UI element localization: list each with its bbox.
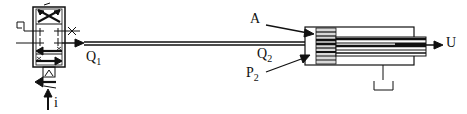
label-a: A	[250, 12, 260, 26]
hydraulic-cylinder	[305, 27, 443, 90]
servo-valve	[16, 3, 80, 110]
piston-rod	[336, 37, 426, 56]
label-p2: P2	[246, 66, 259, 80]
supply-line	[62, 39, 306, 47]
label-q2: Q2	[257, 47, 272, 61]
label-q1: Q1	[86, 50, 101, 64]
piston	[316, 28, 336, 64]
label-u: U	[446, 36, 456, 50]
hydraulic-diagram	[0, 0, 467, 114]
label-i: i	[54, 96, 58, 110]
